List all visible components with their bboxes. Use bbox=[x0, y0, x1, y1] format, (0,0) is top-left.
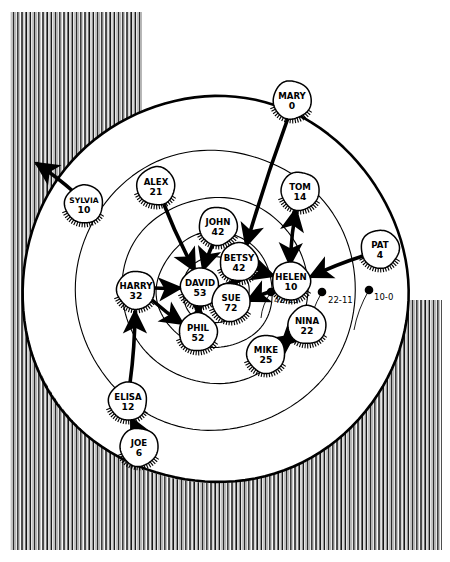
node-score: 42 bbox=[233, 262, 246, 273]
node-score: 21 bbox=[150, 186, 163, 197]
node-score: 72 bbox=[225, 302, 238, 313]
ring-marker-dot bbox=[365, 286, 374, 295]
node-mary[interactable]: MARY0 bbox=[270, 81, 312, 123]
node-score: 6 bbox=[136, 447, 142, 458]
node-pat[interactable]: PAT4 bbox=[358, 230, 400, 272]
node-score: 4 bbox=[377, 249, 383, 260]
node-tom[interactable]: TOM14 bbox=[278, 172, 320, 214]
arrow-tom-to-helen bbox=[290, 209, 296, 265]
node-score: 10 bbox=[285, 281, 298, 292]
node-score: 10 bbox=[78, 204, 91, 215]
node-score: 22 bbox=[301, 325, 314, 336]
node-score: 14 bbox=[294, 191, 307, 202]
ring-marker-label: 22-11 bbox=[328, 295, 353, 305]
ring-marker-dot bbox=[318, 288, 327, 297]
node-score: 0 bbox=[289, 100, 295, 111]
node-score: 52 bbox=[192, 332, 205, 343]
arrow-mary-to-betsy bbox=[246, 118, 288, 246]
arrow-pat-to-helen bbox=[310, 256, 363, 277]
node-score: 42 bbox=[212, 226, 225, 237]
arrow-betsy-to-helen bbox=[255, 268, 274, 276]
sociogram-diagram: 42-2322-1110-0 MARY0SYLVIA10ALEX21TOM14J… bbox=[0, 0, 450, 562]
arrow-alex-to-david bbox=[163, 202, 195, 271]
diagram-canvas: 42-2322-1110-0 MARY0SYLVIA10ALEX21TOM14J… bbox=[0, 0, 450, 562]
node-score: 32 bbox=[130, 290, 143, 301]
node-score: 25 bbox=[260, 354, 273, 365]
node-john[interactable]: JOHN42 bbox=[196, 207, 238, 249]
node-betsy[interactable]: BETSY42 bbox=[217, 243, 258, 286]
hatched-background bbox=[10, 12, 442, 550]
node-score: 12 bbox=[122, 401, 135, 412]
ring-marker-label: 10-0 bbox=[374, 292, 393, 302]
node-score: 53 bbox=[194, 287, 207, 298]
